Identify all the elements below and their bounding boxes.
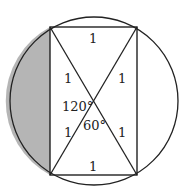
label-bottom: 1 xyxy=(89,159,97,174)
label-angle-120: 120° xyxy=(62,99,93,114)
label-upper-right: 1 xyxy=(118,71,126,86)
label-upper-left: 1 xyxy=(64,71,72,86)
geometry-diagram: 1 1 1 1 1 1 120° 60° xyxy=(0,0,192,195)
label-lower-left: 1 xyxy=(64,125,72,140)
label-lower-right: 1 xyxy=(118,125,126,140)
label-angle-60: 60° xyxy=(83,118,106,133)
label-top: 1 xyxy=(89,31,97,46)
